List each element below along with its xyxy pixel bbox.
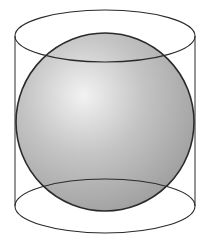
sphere-in-cylinder-diagram: Sphere inscribed in a cylinder (0, 0, 210, 243)
diagram-canvas (0, 0, 210, 243)
sphere (16, 33, 194, 211)
